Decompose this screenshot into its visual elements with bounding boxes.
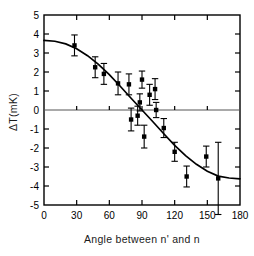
y-tick-label: 3: [33, 48, 39, 59]
x-tick-label: 30: [71, 210, 83, 221]
error-bars: [71, 35, 221, 215]
data-point-marker: [116, 81, 120, 85]
data-points: [72, 43, 220, 180]
chart-figure: 543210-1-2-3-4-5 0306090120150180 Angle …: [0, 0, 254, 256]
y-axis-tick-labels: 543210-1-2-3-4-5: [30, 10, 39, 211]
data-point-marker: [154, 108, 158, 112]
y-tick-label: 4: [33, 29, 39, 40]
data-point-marker: [142, 134, 146, 138]
y-tick-label: -4: [30, 181, 39, 192]
data-point-marker: [140, 77, 144, 81]
data-point-marker: [127, 82, 131, 86]
y-tick-label: 1: [33, 86, 39, 97]
data-point-marker: [129, 117, 133, 121]
data-point-marker: [162, 126, 166, 130]
data-point-marker: [93, 65, 97, 69]
y-tick-label: -2: [30, 143, 39, 154]
x-axis-title: Angle between n' and n: [84, 233, 200, 245]
data-point-marker: [72, 43, 76, 47]
y-tick-label: 5: [33, 10, 39, 21]
data-point-marker: [138, 100, 142, 104]
data-point-marker: [184, 174, 188, 178]
x-tick-label: 120: [166, 210, 183, 221]
y-tick-label: 2: [33, 67, 39, 78]
x-tick-label: 90: [136, 210, 148, 221]
data-point-marker: [172, 150, 176, 154]
data-point-marker: [216, 176, 220, 180]
x-tick-label: 0: [41, 210, 47, 221]
x-tick-label: 150: [199, 210, 216, 221]
y-tick-label: -1: [30, 124, 39, 135]
x-tick-label: 60: [104, 210, 116, 221]
x-axis-tick-labels: 0306090120150180: [41, 210, 249, 221]
data-point-marker: [153, 87, 157, 91]
data-point-marker: [135, 114, 139, 118]
data-point-marker: [102, 72, 106, 76]
y-axis-title: ΔT(mK): [7, 93, 19, 131]
x-tick-label: 180: [232, 210, 249, 221]
data-point-marker: [204, 154, 208, 158]
y-tick-label: 0: [33, 105, 39, 116]
scatter-plot: 543210-1-2-3-4-5 0306090120150180 Angle …: [0, 0, 254, 256]
y-tick-label: -5: [30, 200, 39, 211]
y-tick-label: -3: [30, 162, 39, 173]
data-point-marker: [147, 93, 151, 97]
